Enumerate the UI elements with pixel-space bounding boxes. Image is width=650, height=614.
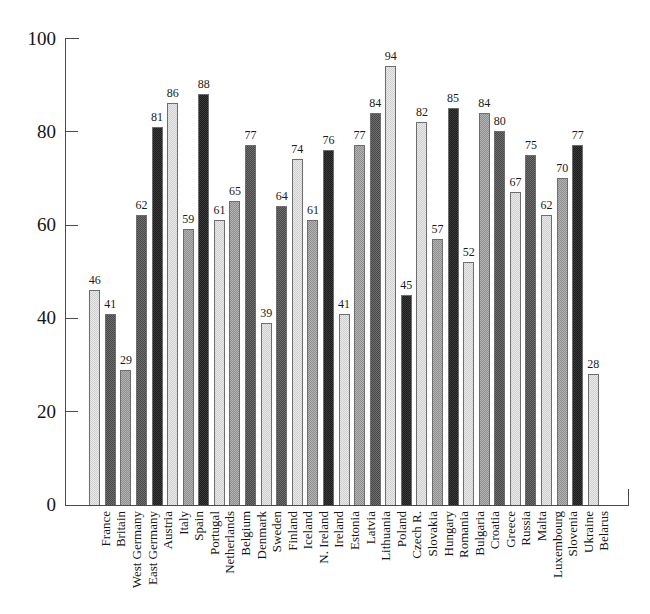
bar-value-label: 61	[307, 204, 319, 216]
x-axis-tick-label-text: Belarus	[597, 511, 610, 551]
bar[interactable]: 76	[323, 150, 334, 505]
x-label-slot: Latvia	[352, 509, 368, 614]
y-tick-label-40: 40	[0, 308, 56, 327]
bar-slot: 77	[243, 38, 259, 505]
y-axis-labels: 100 80 60 40 20 0	[0, 0, 58, 614]
bar-value-label: 75	[525, 139, 537, 151]
bar[interactable]: 59	[183, 229, 194, 505]
bar[interactable]: 67	[510, 192, 521, 505]
bar-value-label: 67	[509, 176, 521, 188]
bar-value-label: 74	[291, 143, 303, 155]
bar[interactable]: 84	[370, 113, 381, 505]
x-axis-tick-label: Iceland	[301, 473, 314, 511]
x-label-slot: West Germany	[118, 509, 134, 614]
bar-value-label: 52	[463, 246, 475, 258]
bar-slot: 62	[539, 38, 555, 505]
x-label-slot: Denmark	[243, 509, 259, 614]
y-tick-80	[65, 131, 78, 132]
bar[interactable]: 77	[354, 145, 365, 505]
x-label-slot: Ukraine	[570, 509, 586, 614]
bar-value-label: 64	[276, 190, 288, 202]
x-label-slot: Hungary	[430, 509, 446, 614]
y-tick-label-60: 60	[0, 215, 56, 234]
bar[interactable]: 88	[198, 94, 209, 505]
y-tick-label-100: 100	[0, 29, 56, 48]
bar[interactable]: 77	[245, 145, 256, 505]
x-axis-tick-label: Lithuania	[379, 461, 392, 511]
x-label-slot: Spain	[180, 509, 196, 614]
bar[interactable]: 77	[572, 145, 583, 505]
y-axis-top-cap	[65, 38, 79, 39]
bar-value-label: 77	[354, 129, 366, 141]
x-axis-tick-label: Portugal	[208, 467, 221, 511]
y-tick-label-80: 80	[0, 122, 56, 141]
x-label-slot: Greece	[492, 509, 508, 614]
bar-value-label: 94	[385, 50, 397, 62]
bar-slot: 39	[258, 38, 274, 505]
bar[interactable]: 85	[448, 108, 459, 505]
y-tick-label-0: 0	[0, 495, 56, 514]
bar-value-label: 28	[587, 358, 599, 370]
bar-value-label: 62	[541, 199, 553, 211]
x-axis-tick-label: Belgium	[239, 466, 252, 511]
bars-container: 4641296281865988616577396474617641778494…	[87, 38, 601, 505]
bar-slot: 28	[586, 38, 602, 505]
x-label-slot: Ireland	[321, 509, 337, 614]
bar-slot: 65	[227, 38, 243, 505]
x-label-slot: Slovakia	[414, 509, 430, 614]
bar[interactable]: 82	[416, 122, 427, 505]
bar-value-label: 41	[104, 298, 116, 310]
x-label-slot: Finland	[274, 509, 290, 614]
x-axis-tick-label: Bulgaria	[473, 466, 486, 511]
bar-value-label: 88	[198, 78, 210, 90]
bar-slot: 84	[367, 38, 383, 505]
bar[interactable]: 75	[525, 155, 536, 505]
x-label-slot: Belarus	[586, 509, 602, 614]
y-axis-line	[65, 38, 66, 505]
x-axis-tick-label: Ireland	[332, 474, 345, 511]
bar[interactable]: 64	[276, 206, 287, 505]
x-axis-tick-label: Greece	[504, 474, 517, 511]
x-label-slot: Malta	[523, 509, 539, 614]
bar[interactable]: 74	[292, 159, 303, 505]
bar[interactable]: 46	[89, 290, 100, 505]
x-label-slot: Belgium	[227, 509, 243, 614]
x-axis-labels: FranceBritainWest GermanyEast GermanyAus…	[87, 509, 601, 614]
bar-value-label: 61	[213, 204, 225, 216]
bar-value-label: 57	[432, 223, 444, 235]
x-axis-tick-label: Estonia	[348, 472, 361, 511]
x-label-slot: Lithuania	[367, 509, 383, 614]
bar-value-label: 59	[182, 213, 194, 225]
bar-value-label: 77	[245, 129, 257, 141]
bar[interactable]: 80	[494, 131, 505, 505]
x-axis-tick-label: Sweden	[270, 470, 283, 511]
x-axis-tick-label: France	[99, 476, 112, 511]
bar-slot: 74	[290, 38, 306, 505]
bar-slot: 94	[383, 38, 399, 505]
x-axis-tick-label: Italy	[177, 487, 190, 511]
bar-chart: 100 80 60 40 20 0 4641296281865988616577…	[0, 0, 650, 614]
bar-slot: 45	[399, 38, 415, 505]
bar-slot: 86	[165, 38, 181, 505]
x-axis-tick-label: Spain	[192, 481, 205, 511]
bar-value-label: 76	[322, 134, 334, 146]
bar-slot: 76	[321, 38, 337, 505]
x-axis-tick-label: Latvia	[364, 478, 377, 511]
x-label-slot: Britain	[103, 509, 119, 614]
bar[interactable]: 86	[167, 103, 178, 505]
bar-value-label: 62	[136, 199, 148, 211]
x-axis-tick-label: Finland	[286, 471, 299, 511]
bar-value-label: 85	[447, 92, 459, 104]
bar[interactable]: 84	[479, 113, 490, 505]
x-label-slot: Iceland	[290, 509, 306, 614]
bar-slot: 59	[180, 38, 196, 505]
bar-value-label: 45	[400, 279, 412, 291]
bar-value-label: 46	[89, 274, 101, 286]
x-axis-tick-label: Czech R.	[410, 463, 423, 511]
y-tick-60	[65, 225, 78, 226]
x-axis-tick-label: Poland	[395, 475, 408, 511]
bar[interactable]: 94	[385, 66, 396, 505]
x-label-slot: Romania	[445, 509, 461, 614]
y-tick-20	[65, 411, 78, 412]
x-label-slot: Slovenia	[554, 509, 570, 614]
